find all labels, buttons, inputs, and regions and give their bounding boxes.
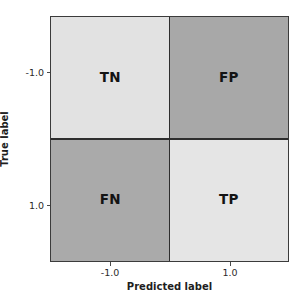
y-tick-mark-2	[47, 205, 51, 206]
x-axis-label: Predicted label	[50, 281, 289, 292]
matrix-cell-false-negative[interactable]: FN	[51, 139, 170, 261]
plot-area: TN FP FN TP	[50, 16, 289, 262]
y-tick-label-1: -1.0	[25, 67, 44, 78]
y-tick-label-2: 1.0	[29, 200, 44, 211]
confusion-matrix-figure: TN FP FN TP -1.0 1.0 -1.0 1.0 Predicted …	[0, 0, 303, 301]
y-tick-mark-1	[47, 72, 51, 73]
x-tick-label-2: 1.0	[222, 267, 237, 278]
x-tick-mark-1	[110, 262, 111, 266]
matrix-cell-label-tp: TP	[219, 193, 239, 207]
grid-line-horizontal	[51, 138, 288, 139]
matrix-cell-true-positive[interactable]: TP	[170, 139, 289, 261]
matrix-cell-label-fp: FP	[219, 71, 239, 85]
matrix-cell-label-tn: TN	[100, 71, 121, 85]
y-axis-label: True label	[0, 111, 10, 167]
x-tick-mark-2	[230, 262, 231, 266]
matrix-cell-false-positive[interactable]: FP	[170, 17, 289, 139]
matrix-cell-label-fn: FN	[100, 193, 121, 207]
x-tick-label-1: -1.0	[101, 267, 120, 278]
matrix-cell-true-negative[interactable]: TN	[51, 17, 170, 139]
